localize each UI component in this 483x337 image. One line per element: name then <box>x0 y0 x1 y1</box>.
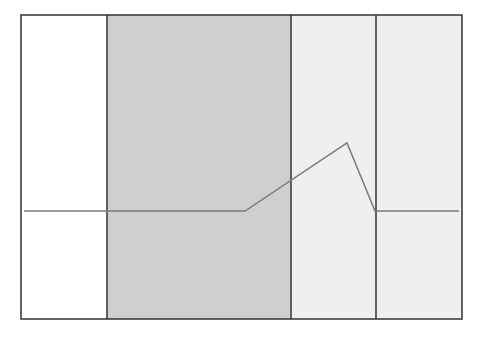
chart <box>0 0 483 337</box>
region-3-band <box>291 15 376 319</box>
region-2-band <box>107 15 291 319</box>
region-1-band <box>21 15 107 319</box>
region-4-band <box>376 15 462 319</box>
